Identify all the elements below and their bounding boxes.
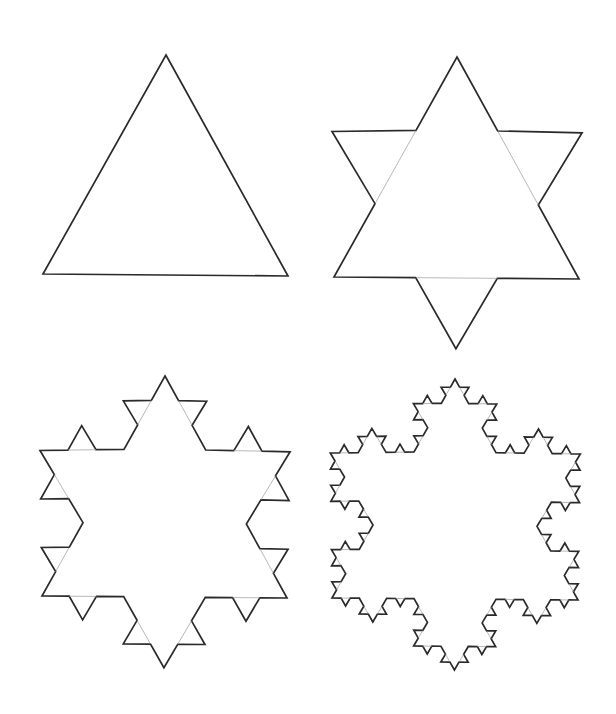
koch-iteration-2-outline bbox=[40, 376, 290, 668]
koch-iteration-2-panel bbox=[40, 376, 290, 668]
koch-iteration-1-panel bbox=[332, 57, 582, 349]
koch-iteration-3-outline bbox=[330, 379, 580, 670]
koch-iteration-1-outline bbox=[332, 57, 582, 349]
koch-iteration-0-panel bbox=[43, 55, 288, 276]
koch-iteration-0-outline bbox=[43, 55, 288, 276]
koch-snowflake-diagram bbox=[0, 0, 616, 714]
koch-iteration-3-panel bbox=[330, 379, 580, 670]
